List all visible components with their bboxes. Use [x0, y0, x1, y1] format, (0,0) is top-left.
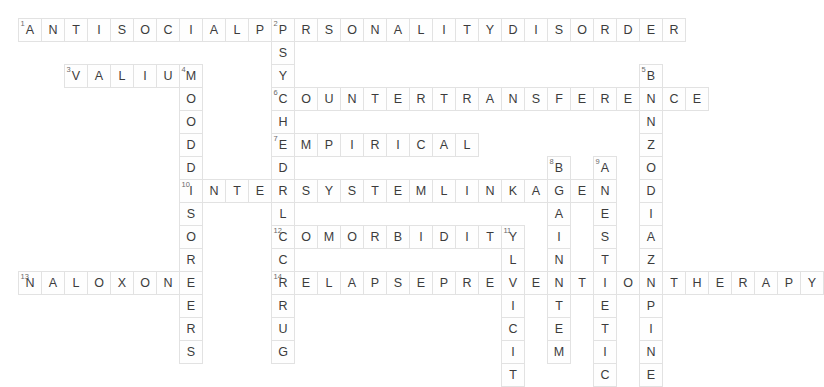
crossword-cell[interactable]: N: [593, 179, 617, 203]
crossword-cell[interactable]: E: [524, 271, 548, 295]
crossword-cell[interactable]: E: [179, 294, 203, 318]
crossword-cell[interactable]: O: [179, 225, 203, 249]
crossword-cell[interactable]: 11Y: [501, 225, 525, 249]
crossword-cell[interactable]: S: [271, 41, 295, 65]
crossword-cell[interactable]: N: [41, 18, 65, 42]
crossword-cell[interactable]: I: [501, 340, 525, 364]
crossword-cell[interactable]: U: [271, 317, 295, 341]
crossword-cell[interactable]: D: [501, 18, 525, 42]
crossword-cell[interactable]: A: [41, 271, 65, 295]
crossword-cell[interactable]: A: [754, 271, 778, 295]
crossword-cell[interactable]: I: [179, 18, 203, 42]
crossword-cell[interactable]: N: [363, 18, 387, 42]
crossword-cell[interactable]: T: [64, 18, 88, 42]
crossword-cell[interactable]: O: [133, 18, 157, 42]
crossword-cell[interactable]: 13N: [18, 271, 42, 295]
crossword-cell[interactable]: L: [271, 202, 295, 226]
crossword-cell[interactable]: E: [409, 271, 433, 295]
crossword-cell[interactable]: M: [294, 133, 318, 157]
crossword-cell[interactable]: L: [501, 248, 525, 272]
crossword-cell[interactable]: R: [455, 87, 479, 111]
crossword-cell[interactable]: A: [524, 179, 548, 203]
crossword-cell[interactable]: A: [432, 133, 456, 157]
crossword-cell[interactable]: O: [340, 18, 364, 42]
crossword-cell[interactable]: N: [202, 179, 226, 203]
crossword-cell[interactable]: R: [179, 317, 203, 341]
crossword-cell[interactable]: C: [409, 133, 433, 157]
crossword-cell[interactable]: I: [524, 18, 548, 42]
crossword-cell[interactable]: E: [570, 87, 594, 111]
crossword-cell[interactable]: S: [110, 18, 134, 42]
crossword-cell[interactable]: E: [248, 179, 272, 203]
crossword-cell[interactable]: O: [179, 110, 203, 134]
crossword-cell[interactable]: S: [179, 340, 203, 364]
crossword-cell[interactable]: 9A: [593, 156, 617, 180]
crossword-cell[interactable]: R: [179, 248, 203, 272]
crossword-cell[interactable]: F: [547, 87, 571, 111]
crossword-cell[interactable]: O: [133, 271, 157, 295]
crossword-cell[interactable]: E: [593, 294, 617, 318]
crossword-cell[interactable]: O: [639, 156, 663, 180]
crossword-cell[interactable]: A: [547, 202, 571, 226]
crossword-cell[interactable]: X: [110, 271, 134, 295]
crossword-cell[interactable]: S: [179, 202, 203, 226]
crossword-cell[interactable]: S: [547, 18, 571, 42]
crossword-cell[interactable]: I: [547, 225, 571, 249]
crossword-cell[interactable]: S: [524, 87, 548, 111]
crossword-cell[interactable]: O: [87, 271, 111, 295]
crossword-cell[interactable]: L: [432, 179, 456, 203]
crossword-cell[interactable]: Z: [639, 133, 663, 157]
crossword-cell[interactable]: 3V: [64, 64, 88, 88]
crossword-cell[interactable]: 8B: [547, 156, 571, 180]
crossword-cell[interactable]: R: [731, 271, 755, 295]
crossword-cell[interactable]: N: [639, 87, 663, 111]
crossword-cell[interactable]: K: [501, 179, 525, 203]
crossword-cell[interactable]: C: [501, 317, 525, 341]
crossword-cell[interactable]: I: [432, 18, 456, 42]
crossword-cell[interactable]: T: [570, 271, 594, 295]
crossword-cell[interactable]: E: [616, 87, 640, 111]
crossword-cell[interactable]: T: [363, 179, 387, 203]
crossword-cell[interactable]: A: [478, 87, 502, 111]
crossword-cell[interactable]: A: [639, 225, 663, 249]
crossword-cell[interactable]: E: [593, 202, 617, 226]
crossword-cell[interactable]: O: [294, 225, 318, 249]
crossword-cell[interactable]: B: [386, 225, 410, 249]
crossword-cell[interactable]: Y: [317, 179, 341, 203]
crossword-cell[interactable]: S: [317, 18, 341, 42]
crossword-cell[interactable]: L: [64, 271, 88, 295]
crossword-cell[interactable]: R: [593, 87, 617, 111]
crossword-cell[interactable]: P: [317, 133, 341, 157]
crossword-cell[interactable]: Y: [271, 64, 295, 88]
crossword-cell[interactable]: U: [317, 87, 341, 111]
crossword-cell[interactable]: R: [455, 271, 479, 295]
crossword-cell[interactable]: M: [409, 179, 433, 203]
crossword-cell[interactable]: N: [340, 87, 364, 111]
crossword-cell[interactable]: U: [156, 64, 180, 88]
crossword-cell[interactable]: I: [455, 225, 479, 249]
crossword-cell[interactable]: T: [547, 294, 571, 318]
crossword-cell[interactable]: N: [639, 271, 663, 295]
crossword-cell[interactable]: 4M: [179, 64, 203, 88]
crossword-cell[interactable]: V: [501, 271, 525, 295]
crossword-cell[interactable]: P: [363, 271, 387, 295]
crossword-cell[interactable]: D: [639, 179, 663, 203]
crossword-cell[interactable]: I: [593, 271, 617, 295]
crossword-cell[interactable]: S: [294, 179, 318, 203]
crossword-cell[interactable]: T: [593, 317, 617, 341]
crossword-cell[interactable]: I: [639, 202, 663, 226]
crossword-cell[interactable]: 1A: [18, 18, 42, 42]
crossword-cell[interactable]: 10I: [179, 179, 203, 203]
crossword-cell[interactable]: N: [501, 87, 525, 111]
crossword-cell[interactable]: E: [570, 179, 594, 203]
crossword-cell[interactable]: A: [87, 64, 111, 88]
crossword-cell[interactable]: 12C: [271, 225, 295, 249]
crossword-cell[interactable]: I: [501, 294, 525, 318]
crossword-cell[interactable]: R: [294, 18, 318, 42]
crossword-cell[interactable]: Y: [800, 271, 824, 295]
crossword-cell[interactable]: R: [593, 18, 617, 42]
crossword-cell[interactable]: G: [271, 340, 295, 364]
crossword-cell[interactable]: N: [639, 110, 663, 134]
crossword-cell[interactable]: M: [547, 340, 571, 364]
crossword-cell[interactable]: C: [662, 87, 686, 111]
